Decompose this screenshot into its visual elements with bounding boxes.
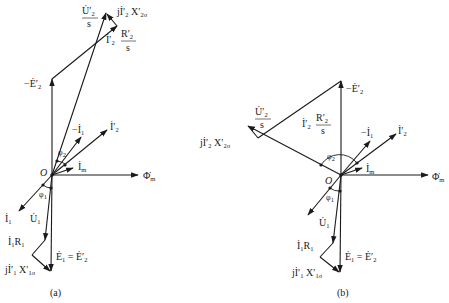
phim-label-a: Φ̇m <box>143 170 155 182</box>
im-label-a: İm <box>78 161 86 173</box>
jx1-vector-b <box>320 257 339 272</box>
u2s-den-a: s <box>87 18 91 29</box>
u2s-vector-b <box>248 126 341 175</box>
e1-label-b: Ė1 = Ė′2 <box>345 251 377 263</box>
phi1-label-b: φ1 <box>326 193 334 203</box>
origin-point-a <box>50 173 54 177</box>
caption-b: (b) <box>337 287 349 299</box>
phi2-label-a: φ2 <box>58 148 66 158</box>
im-label-b: İm <box>366 163 374 175</box>
i1r1-vector-a <box>32 240 45 255</box>
r2-den-a: s <box>126 42 130 53</box>
i1-vector-a <box>19 175 52 211</box>
neg-e2-label-a: −Ė′2 <box>24 78 41 90</box>
neg-i1-label-a: −İ1 <box>72 124 84 136</box>
origin-label-b: O <box>325 175 332 186</box>
jx2-label-b: jİ′2 X′2σ <box>199 137 231 149</box>
r2-den-b: s <box>321 125 325 136</box>
panel-a: U̇′2 s jİ′2 X′2σ İ′2 R′2 s −Ė′2 −İ1 İ′2 … <box>4 5 155 299</box>
caption-a: (a) <box>50 287 61 299</box>
u1-label-a: U̇1 <box>30 213 40 225</box>
jx2-vector-a <box>107 14 117 26</box>
jx1-label-a: jİ′1 X′1σ <box>4 264 36 276</box>
i2-r2-vector-b <box>258 81 341 138</box>
jx1-label-b: jİ′1 X′1σ <box>291 267 323 279</box>
i1r1-vector-b <box>320 243 333 257</box>
i2-label-a: İ′2 <box>110 121 119 133</box>
i1-label-a: İ1 <box>5 213 12 225</box>
u2s-den-b: s <box>260 119 264 130</box>
u2s-label-a: U̇′2 <box>82 5 95 17</box>
i1r1-label-b: İ1R1 <box>297 240 314 252</box>
phim-label-b: Φ̇m <box>432 171 444 183</box>
r2-label-a: İ′2 <box>106 34 115 46</box>
neg-i1-label-b: −İ1 <box>361 127 373 139</box>
u2s-label-b: U̇′2 <box>255 106 268 118</box>
r2-num-b: R′2 <box>316 112 328 124</box>
phi1-label-a: φ1 <box>39 190 47 200</box>
u1-vector-b <box>333 175 341 243</box>
neg-i1-vector-a <box>52 137 81 175</box>
phi2-label-b: φ2 <box>327 152 335 162</box>
u1-label-b: U̇1 <box>319 217 329 229</box>
i1r1-label-a: İ1R1 <box>8 236 25 248</box>
e1-label-a: Ė1 = Ė′2 <box>56 251 88 263</box>
origin-point-b <box>339 173 343 177</box>
r2-label-b: İ′2 <box>302 118 311 130</box>
phasor-diagram-figure: U̇′2 s jİ′2 X′2σ İ′2 R′2 s −Ė′2 −İ1 İ′2 … <box>0 0 449 303</box>
r2-num-a: R′2 <box>121 28 133 40</box>
neg-e2-label-b: −Ė′2 <box>346 83 363 95</box>
panel-b: U̇′2 s jİ′2 X′2σ İ′2 R′2 s −Ė′2 −İ1 İ′2 … <box>199 81 444 299</box>
i2-label-b: İ′2 <box>398 125 407 137</box>
origin-label-a: O <box>40 167 47 178</box>
jx2-label-a: jİ′2 X′2σ <box>116 6 148 18</box>
